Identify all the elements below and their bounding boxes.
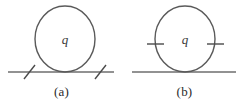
diagram-b-canvas: q	[123, 0, 246, 86]
panel-caption-b: (b)	[123, 84, 246, 100]
panel-caption-a: (a)	[0, 84, 123, 100]
loop-momentum-label-b: q	[182, 32, 189, 47]
figure-root: q (a) q (b)	[0, 0, 246, 109]
loop-momentum-label-a: q	[62, 32, 69, 47]
diagram-a-canvas: q	[0, 0, 123, 86]
diagram-panel-b: q (b)	[123, 0, 246, 109]
diagram-panel-a: q (a)	[0, 0, 123, 109]
